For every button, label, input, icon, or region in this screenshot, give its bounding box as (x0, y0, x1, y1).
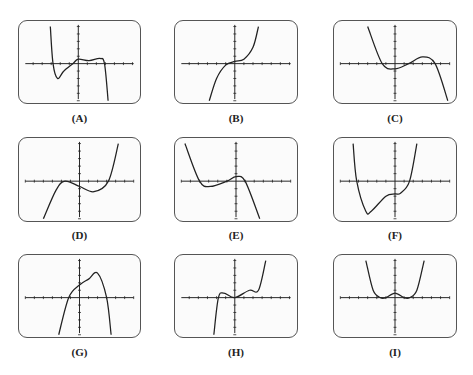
panel-label-i: (I) (365, 346, 425, 358)
panel-label-g: (G) (50, 346, 110, 358)
plot-e (175, 138, 297, 221)
graph-screen-h (174, 254, 298, 338)
graph-screen-d (18, 137, 141, 222)
plot-d (19, 138, 140, 221)
graph-screen-c (333, 20, 457, 104)
panel-label-h: (H) (206, 346, 266, 358)
graph-screen-b (174, 20, 298, 104)
plot-h (175, 255, 297, 337)
panel-label-b: (B) (206, 112, 266, 124)
graph-screen-g (18, 254, 141, 338)
plot-f (334, 138, 456, 221)
graph-screen-a (18, 20, 141, 104)
panel-label-c: (C) (365, 112, 425, 124)
graph-screen-f (333, 137, 457, 222)
panel-label-a: (A) (50, 112, 110, 124)
graph-screen-e (174, 137, 298, 222)
plot-b (175, 21, 297, 103)
polynomial-curve (59, 272, 111, 334)
cropped-header-strip (0, 0, 473, 6)
plot-g (19, 255, 140, 337)
plot-i (334, 255, 456, 337)
panel-label-d: (D) (50, 229, 110, 241)
plot-c (334, 21, 456, 103)
plot-a (19, 21, 140, 103)
panel-label-f: (F) (365, 229, 425, 241)
graph-screen-i (333, 254, 457, 338)
panel-label-e: (E) (206, 229, 266, 241)
polynomial-curve (353, 144, 417, 215)
